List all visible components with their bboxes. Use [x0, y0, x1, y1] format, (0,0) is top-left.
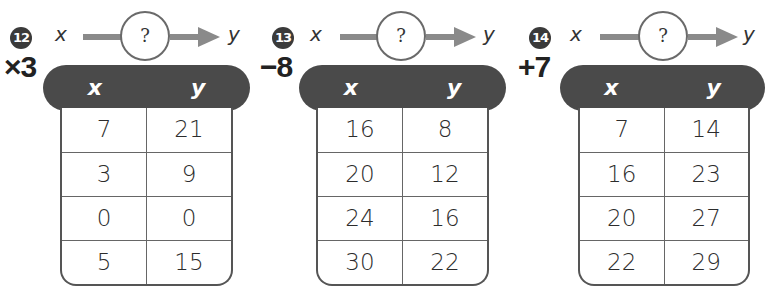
cell-x: 30 [318, 241, 402, 284]
cell-x: 16 [580, 153, 664, 196]
arrow-line-right [426, 34, 456, 40]
header-x: x [43, 65, 147, 111]
cell-x: 7 [580, 108, 664, 152]
table-header: x y [560, 65, 765, 111]
table-row: 39 [62, 152, 231, 196]
cell-x: 24 [318, 197, 402, 240]
table-row: 515 [62, 240, 231, 284]
arrow-head-icon [454, 27, 476, 47]
cell-y: 16 [402, 197, 487, 240]
table-row: 2012 [318, 152, 487, 196]
output-variable: y [228, 22, 240, 46]
cell-x: 3 [62, 153, 146, 196]
cell-y: 14 [664, 108, 749, 152]
cell-y: 23 [664, 153, 749, 196]
cell-x: 0 [62, 197, 146, 240]
arrow-line-left [340, 34, 380, 40]
rule-circle: ? [376, 11, 426, 61]
output-variable: y [483, 22, 495, 46]
header-x: x [560, 65, 663, 111]
table-row: 714 [580, 108, 748, 152]
input-variable: x [55, 22, 67, 46]
arrow-line-left [600, 34, 640, 40]
cell-y: 0 [146, 197, 231, 240]
cell-x: 22 [580, 241, 664, 284]
table-header: x y [43, 65, 250, 111]
arrow-line-left [83, 34, 123, 40]
rule-circle: ? [120, 11, 170, 61]
cell-x: 7 [62, 108, 146, 152]
arrow-head-icon [198, 27, 220, 47]
cell-y: 27 [664, 197, 749, 240]
problem-13: 13 x ? y −8 x y 168 2012 2416 3022 [255, 0, 510, 291]
rule-answer: ×3 [4, 50, 36, 84]
cell-y: 21 [146, 108, 231, 152]
header-x: x [299, 65, 403, 111]
cell-x: 5 [62, 241, 146, 284]
problem-12: 12 x ? y ×3 x y 721 39 00 515 [0, 0, 255, 291]
header-y: y [147, 65, 251, 111]
problem-number-badge: 12 [10, 27, 32, 49]
problem-number-badge: 13 [272, 27, 294, 49]
table-row: 2027 [580, 196, 748, 240]
function-table: 721 39 00 515 [60, 108, 233, 286]
function-table: 714 1623 2027 2229 [578, 108, 750, 286]
cell-x: 20 [318, 153, 402, 196]
cell-y: 29 [664, 241, 749, 284]
problem-14: 14 x ? y +7 x y 714 1623 2027 2229 [510, 0, 765, 291]
rule-answer: +7 [518, 50, 550, 84]
table-row: 2416 [318, 196, 487, 240]
output-variable: y [743, 22, 755, 46]
table-row: 00 [62, 196, 231, 240]
cell-y: 9 [146, 153, 231, 196]
table-row: 721 [62, 108, 231, 152]
header-y: y [663, 65, 765, 111]
table-row: 168 [318, 108, 487, 152]
table-header: x y [299, 65, 506, 111]
cell-y: 8 [402, 108, 487, 152]
cell-x: 16 [318, 108, 402, 152]
cell-x: 20 [580, 197, 664, 240]
cell-y: 12 [402, 153, 487, 196]
input-variable: x [310, 22, 322, 46]
table-row: 1623 [580, 152, 748, 196]
arrow-head-icon [716, 27, 738, 47]
cell-y: 15 [146, 241, 231, 284]
arrow-line-right [170, 34, 200, 40]
table-row: 3022 [318, 240, 487, 284]
rule-circle: ? [638, 11, 688, 61]
input-variable: x [570, 22, 582, 46]
function-table: 168 2012 2416 3022 [316, 108, 489, 286]
header-y: y [403, 65, 507, 111]
cell-y: 22 [402, 241, 487, 284]
table-row: 2229 [580, 240, 748, 284]
arrow-line-right [688, 34, 718, 40]
rule-answer: −8 [260, 50, 292, 84]
problem-number-badge: 14 [529, 27, 551, 49]
